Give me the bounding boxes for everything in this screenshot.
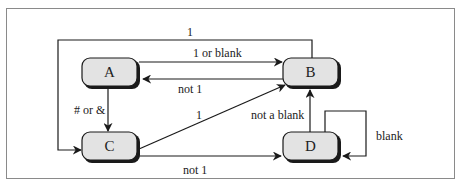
edge-label-a-to-c: # or & [74, 103, 106, 117]
edge-label-a-to-b: 1 or blank [193, 46, 242, 60]
node-b: B [283, 58, 341, 89]
edge-label-c-to-b: 1 [196, 108, 202, 122]
edge-label-d-to-b: not a blank [251, 108, 304, 122]
edge-label-b-to-a: not 1 [178, 82, 202, 96]
node-label-c: C [104, 138, 114, 154]
edge-label-d-self-loop: blank [376, 129, 403, 143]
edge-label-c-to-d: not 1 [183, 163, 207, 177]
diagram-frame [7, 9, 455, 179]
node-c: C [82, 132, 140, 163]
node-label-a: A [104, 64, 115, 80]
node-a: A [82, 58, 140, 89]
node-label-d: D [305, 138, 316, 154]
edge-label-b-to-c: 1 [187, 25, 193, 39]
node-d: D [283, 132, 341, 163]
node-label-b: B [305, 64, 315, 80]
state-diagram: 1 1 or blank not 1 # or & 1 not 1 not a … [0, 0, 461, 194]
